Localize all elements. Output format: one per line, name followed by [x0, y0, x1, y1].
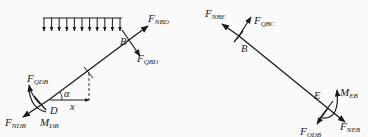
label-point-b-right: B: [241, 43, 248, 54]
label-f-nbd: FNBD: [147, 12, 169, 26]
label-f-qdb-right: FQDB: [299, 125, 322, 137]
label-f-qbc: FQBC: [253, 14, 275, 28]
force-nbe-arrow: [222, 24, 239, 36]
label-m-db: MDB: [39, 116, 59, 130]
distributed-load: [43, 18, 122, 31]
label-alpha: α: [64, 88, 70, 99]
label-f-qbd: FQBD: [136, 52, 158, 66]
force-nbd-arrow: [137, 26, 148, 34]
angle-arc: [60, 92, 62, 100]
label-f-neb: FNEB: [339, 120, 361, 134]
diagram-svg: FNBD FQBD B FQDB FNDB MDB D α x FNBE FQB…: [0, 0, 368, 137]
force-qdb-right-arrow: [317, 108, 328, 124]
force-qbc-arrow: [237, 17, 251, 39]
free-body-diagram: FNBD FQBD B FQDB FNDB MDB D α x FNBE FQB…: [0, 0, 368, 137]
right-member: FNBE FQBC B E MEB FQDB FNEB: [204, 7, 361, 137]
label-f-qdb-left: FQDB: [26, 72, 49, 86]
label-point-b-left: B: [120, 36, 127, 47]
label-x: x: [69, 101, 75, 112]
label-f-ndb: FNDB: [4, 116, 26, 130]
label-point-e: E: [313, 90, 321, 101]
label-f-nbe: FNBE: [204, 7, 226, 21]
label-point-d: D: [49, 105, 58, 116]
force-ndb-arrow: [23, 99, 50, 117]
label-m-eb: MEB: [339, 86, 358, 100]
left-member: FNBD FQBD B FQDB FNDB MDB D α x: [4, 12, 169, 130]
